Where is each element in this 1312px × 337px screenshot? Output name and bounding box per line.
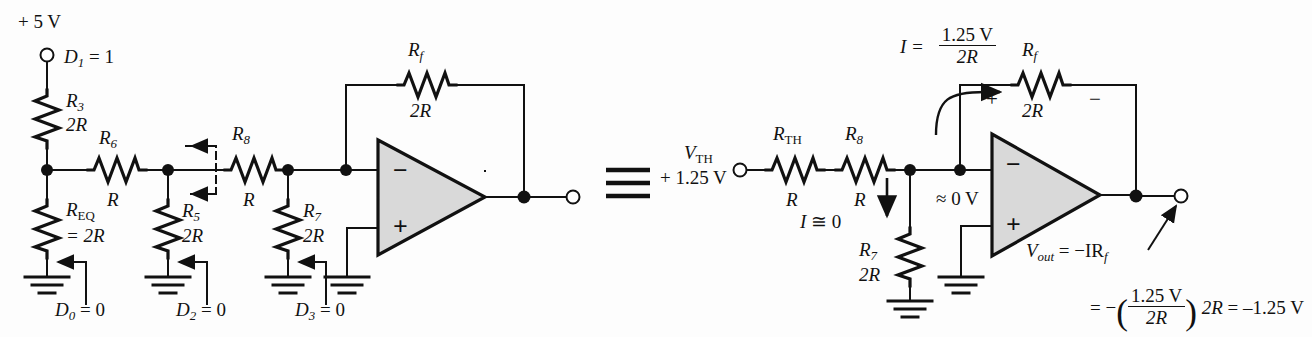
resistor-RTH [766,158,824,182]
label-Rf-right-value: 2R [1022,101,1043,120]
vth-terminal-open-circle [734,164,747,177]
label-RTH: RTH [773,124,802,147]
label-D0: D0 = 0 [55,300,105,323]
ground-symbol-3 [266,277,310,293]
left-output-net [485,85,580,204]
opamp-right-inverting-input-sign: − [1006,152,1021,178]
label-R3: R3 [66,91,84,114]
label-R3-value: 2R [66,115,87,134]
opamp-left-inverting-input-sign: − [393,158,408,184]
equivalence-symbol [606,170,650,196]
ground-symbol-opamp-left [325,277,369,293]
rf-polarity-plus: + [986,89,998,110]
label-D1: D1 = 1 [64,47,114,70]
label-R7: R7 [303,201,321,224]
label-R6-value: R [107,190,119,209]
supply-terminal-open-circle [41,49,54,62]
label-Vout-equation-2: = −( 1.25 V 2R ) 2R = –1.25 V [1090,286,1304,327]
figure-canvas: + 5 V D1 = 1 R3 2R REQ = 2R R6 R R5 2R R… [0,0,1312,337]
label-R8: R8 [232,124,250,147]
ground-symbol-1 [25,277,69,293]
label-R7-value: 2R [303,226,324,245]
label-R8-right-value: R [854,190,866,209]
label-R7-right: R7 [859,240,877,263]
current-equation: I = 1.25 V 2R [900,25,996,66]
resistor-R7-right [898,228,922,286]
label-VTH: VTH [684,143,713,166]
resistor-R8-right [836,158,894,182]
ground-symbol-opamp-right [939,277,983,293]
label-R5: R5 [182,201,200,224]
label-R6: R6 [99,128,117,151]
label-REQ-value: = 2R [66,226,105,245]
label-R5-value: 2R [182,226,203,245]
resistor-R3 [35,90,59,148]
resistor-R6 [88,158,146,182]
label-D3: D3 = 0 [295,300,345,323]
pointer-vout [1148,206,1176,250]
label-Rf-left: Rf [408,40,423,63]
label-Rf-right: Rf [1022,40,1037,63]
resistor-R7 [276,200,300,258]
resistor-Rf-left [398,73,456,97]
resistor-REQ [35,200,59,258]
label-R8-value: R [243,190,255,209]
resistor-R5 [156,200,180,258]
label-RTH-value: R [786,190,798,209]
supply-voltage-label: + 5 V [18,12,61,31]
opamp-left-noninverting-input-sign: + [393,214,408,240]
opamp-right-noninverting-input-sign: + [1006,212,1021,238]
label-REQ: REQ [66,200,95,223]
label-virtual-ground: ≈ 0 V [936,189,979,208]
label-I-approx-zero: I ≅ 0 [800,212,841,231]
label-R8-right: R8 [845,124,863,147]
output-terminal-open-circle-left [567,191,580,204]
rf-polarity-minus: − [1089,89,1101,110]
output-terminal-open-circle-right [1175,190,1188,203]
resistor-R8 [225,158,283,182]
label-Rf-left-value: 2R [410,101,431,120]
label-VTH-value: + 1.25 V [660,168,727,187]
label-Vout-equation-1: Vout = −IRf [1026,241,1108,264]
label-R7-right-value: 2R [859,265,880,284]
resistor-Rf-right [1012,73,1070,97]
left-circuit-wires [25,49,524,294]
ground-symbol-R7-right [888,301,932,317]
label-D2: D2 = 0 [176,300,226,323]
ground-symbol-2 [146,277,190,293]
